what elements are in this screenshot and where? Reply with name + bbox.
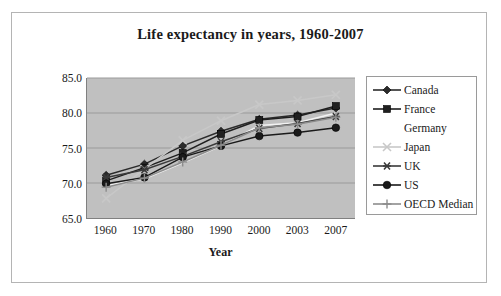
square-marker-icon [372, 102, 402, 116]
y-tick-label: 70.0 [36, 178, 82, 190]
none-marker-icon [372, 121, 402, 135]
chart-title: Life expectancy in years, 1960-2007 [0, 26, 501, 43]
circle-marker-icon [372, 178, 402, 192]
legend-label: US [402, 179, 419, 191]
legend-item-france[interactable]: France [367, 99, 476, 118]
legend-label: Japan [402, 141, 430, 153]
plot-series-svg [87, 78, 355, 218]
legend-item-germany[interactable]: Germany [367, 118, 476, 137]
legend-label: Germany [402, 122, 447, 134]
y-tick-label: 65.0 [36, 213, 82, 225]
legend-item-japan[interactable]: Japan [367, 137, 476, 156]
y-tick-label: 80.0 [36, 107, 82, 119]
y-tick-label: 85.0 [36, 72, 82, 84]
legend-label: UK [402, 160, 421, 172]
x-axis-tick-labels: 1960197019801990200020032007 [86, 224, 355, 240]
legend-label: France [402, 103, 435, 115]
chart-figure: Life expectancy in years, 1960-2007 Life… [0, 0, 501, 296]
chart-legend: CanadaFranceGermanyJapanUKUSOECD Median [366, 76, 477, 215]
legend-label: Canada [402, 84, 438, 96]
diamond-marker-icon [372, 83, 402, 97]
legend-label: OECD Median [402, 198, 473, 210]
x-axis-title: Year [86, 245, 355, 260]
legend-item-us[interactable]: US [367, 175, 476, 194]
asterisk-marker-icon [372, 159, 402, 173]
legend-item-oecd-median[interactable]: OECD Median [367, 194, 476, 213]
legend-item-uk[interactable]: UK [367, 156, 476, 175]
legend-item-canada[interactable]: Canada [367, 80, 476, 99]
series-oecd-median [102, 113, 341, 192]
y-axis-tick-labels: 85.080.075.070.065.0 [34, 78, 82, 219]
x-tick-label: 2007 [311, 224, 361, 236]
x-marker-icon [372, 140, 402, 154]
plot-area [86, 78, 355, 219]
y-tick-label: 75.0 [36, 143, 82, 155]
plus-marker-icon [372, 197, 402, 211]
